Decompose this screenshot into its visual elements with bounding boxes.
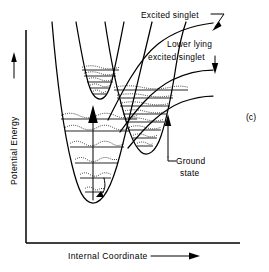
diagram-canvas: Potential Energy Internal Coordinate	[0, 0, 269, 272]
excited-singlet-annotation: Excited singlet	[141, 10, 224, 31]
vibrational-relaxation-arrow	[96, 178, 105, 197]
wavefunction-trace	[70, 141, 124, 146]
ground-state-well-curve	[52, 22, 152, 203]
ground-state-leader-elbow	[168, 157, 176, 161]
wavefunction-trace	[65, 125, 130, 130]
wavefunction-trace	[87, 78, 113, 81]
potential-energy-diagram: Potential Energy Internal Coordinate	[0, 0, 269, 272]
panel-label: (c)	[246, 112, 256, 122]
x-axis-label-arrowhead	[189, 253, 200, 260]
y-axis-label-group: Potential Energy	[9, 52, 19, 185]
wavefunction-trace	[80, 173, 111, 177]
wavefunction-trace	[93, 90, 106, 93]
wavefunction-trace	[84, 72, 116, 75]
y-axis-label-arrowhead	[11, 52, 17, 62]
wavefunction-trace	[90, 84, 110, 87]
axes-group	[26, 30, 240, 243]
ground-state-label-line2: state	[180, 168, 199, 178]
lower-lying-leader-arrowhead	[212, 63, 218, 74]
wavefunction-trace	[75, 158, 118, 162]
ground-state-potential-curve	[52, 22, 152, 203]
wavefunction-trace	[85, 187, 104, 190]
x-axis-label: Internal Coordinate	[68, 251, 148, 261]
ground-state-annotation: Ground state	[165, 114, 206, 178]
wavefunction-trace	[137, 142, 153, 144]
vertical-excitation-arrowhead	[88, 105, 98, 123]
x-axis-label-group: Internal Coordinate	[68, 251, 200, 261]
wavefunction-trace	[133, 134, 157, 137]
ground-state-label-line1: Ground	[176, 156, 206, 166]
excited-singlet-label: Excited singlet	[141, 10, 199, 20]
y-axis-label: Potential Energy	[9, 116, 19, 185]
wavefunction-trace	[117, 94, 173, 97]
lower-lying-label-line1: Lower lying	[167, 39, 212, 49]
lower-lying-label-line2: excited singlet	[148, 52, 205, 62]
vertical-excitation-arrow	[88, 105, 98, 200]
wavefunction-trace	[120, 102, 170, 105]
wavefunction-trace	[123, 110, 167, 113]
